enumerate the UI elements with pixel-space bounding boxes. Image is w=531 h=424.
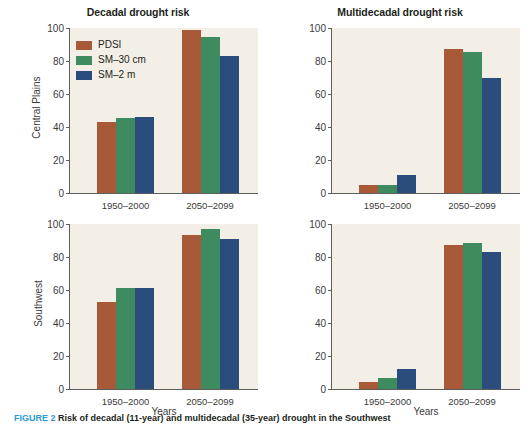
bar-pdsi [444,49,463,193]
y-tick-label: 80 [315,252,326,263]
y-tick [66,323,70,324]
figure-caption-text: Risk of decadal (11-year) and multidecad… [56,413,391,423]
y-tick [66,28,70,29]
y-tick-label: 0 [58,384,64,395]
y-tick-label: 100 [47,219,64,230]
y-tick-label: 20 [53,351,64,362]
x-axis-line [331,193,520,194]
figure-number: FIGURE 2 [14,413,56,423]
figure-caption: FIGURE 2 Risk of decadal (11-year) and m… [14,413,519,424]
y-tick [328,28,332,29]
x-tick-label: 2050–2099 [448,200,496,211]
x-axis-line [69,193,258,194]
plot-area-bottom-right: 0204060801001950–20002050–2099 [332,224,520,389]
bar-sm2 [482,78,501,193]
legend-swatch-sm30 [76,56,92,65]
y-tick [66,356,70,357]
y-tick [66,389,70,390]
y-tick-label: 40 [315,122,326,133]
y-axis-label-central-plains: Central Plains [31,68,42,148]
y-tick-label: 60 [315,285,326,296]
y-tick-label: 40 [53,122,64,133]
y-tick [328,224,332,225]
plot-area-top-left: 0204060801001950–20002050–2099 [70,28,258,193]
y-axis-line [331,28,332,193]
y-tick [328,257,332,258]
bar-sm30 [201,37,220,193]
y-tick-label: 0 [320,188,326,199]
legend-label-sm2: SM–2 m [98,69,135,80]
bar-sm30 [463,52,482,193]
panel-top-left: Decadal drought risk 0204060801001950–20… [14,6,262,218]
y-tick-label: 60 [315,89,326,100]
bar-sm30 [378,378,397,389]
bar-sm2 [220,239,239,389]
panel-title-multidecadal: Multidecadal drought risk [276,6,524,18]
y-tick-label: 40 [315,318,326,329]
y-tick-label: 80 [53,56,64,67]
x-tick-label: 2050–2099 [186,200,234,211]
y-axis-label-southwest: Southwest [33,264,44,344]
y-tick [66,61,70,62]
y-axis-line [69,224,70,389]
y-tick-label: 80 [315,56,326,67]
bar-pdsi [182,235,201,389]
bar-pdsi [182,30,201,193]
y-tick [328,160,332,161]
panel-bottom-right: 0204060801001950–20002050–2099 Years [276,218,524,414]
bar-sm2 [220,56,239,193]
bar-sm2 [135,117,154,193]
y-tick-label: 0 [320,384,326,395]
y-tick [66,290,70,291]
bar-sm30 [463,243,482,389]
y-tick-label: 60 [53,89,64,100]
y-tick [328,389,332,390]
y-tick [66,257,70,258]
x-tick-label: 1950–2000 [364,200,412,211]
y-tick [328,323,332,324]
legend-swatch-pdsi [76,41,92,50]
y-tick-label: 60 [53,285,64,296]
legend-label-pdsi: PDSI [98,39,121,50]
bar-sm30 [378,185,397,193]
bar-pdsi [97,302,116,389]
y-tick-label: 100 [309,23,326,34]
y-tick [66,193,70,194]
panel-top-right: Multidecadal drought risk 02040608010019… [276,6,524,218]
y-tick [328,356,332,357]
y-tick-label: 20 [315,155,326,166]
bar-pdsi [444,245,463,389]
bar-sm2 [397,369,416,389]
bar-pdsi [359,382,378,389]
panel-bottom-left: 0204060801001950–20002050–2099 Southwest… [14,218,262,414]
y-tick-label: 0 [58,188,64,199]
y-tick-label: 100 [47,23,64,34]
legend-swatch-sm2 [76,71,92,80]
x-axis-line [331,389,520,390]
y-tick [66,94,70,95]
bar-sm2 [482,252,501,389]
bar-sm30 [201,229,220,389]
y-axis-line [69,28,70,193]
bar-pdsi [97,122,116,193]
y-tick [328,290,332,291]
panel-title-decadal: Decadal drought risk [14,6,262,18]
bar-sm30 [116,118,135,193]
figure-container: Decadal drought risk 0204060801001950–20… [0,0,531,424]
bar-sm2 [135,288,154,389]
y-tick-label: 80 [53,252,64,263]
y-tick [66,160,70,161]
y-tick-label: 20 [315,351,326,362]
y-tick [328,94,332,95]
bar-pdsi [359,185,378,193]
y-tick-label: 20 [53,155,64,166]
x-axis-line [69,389,258,390]
x-tick-label: 1950–2000 [102,200,150,211]
y-tick [328,61,332,62]
bar-sm2 [397,175,416,193]
plot-area-top-right: 0204060801001950–20002050–2099 [332,28,520,193]
y-tick [66,127,70,128]
y-tick-label: 40 [53,318,64,329]
y-tick-label: 100 [309,219,326,230]
bar-sm30 [116,288,135,389]
